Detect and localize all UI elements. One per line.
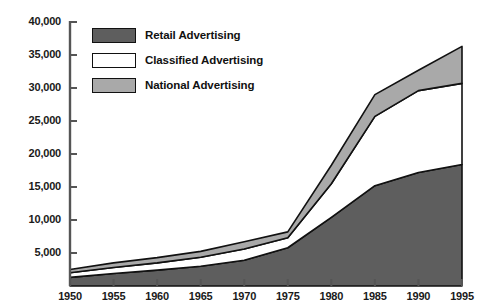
legend-swatch-icon (92, 78, 136, 93)
x-axis-label-1965: 1965 (178, 290, 224, 302)
x-axis-label-1990: 1990 (395, 290, 441, 302)
y-axis-label-10000: 10,000 (0, 213, 61, 225)
legend-item-retail-advertising: Retail Advertising (92, 24, 263, 46)
x-axis-label-1980: 1980 (308, 290, 354, 302)
legend-item-national-advertising: National Advertising (92, 74, 263, 96)
y-axis-label-15000: 15,000 (0, 180, 61, 192)
legend-swatch-icon (92, 28, 136, 43)
chart-legend: Retail AdvertisingClassified Advertising… (92, 24, 263, 99)
y-axis-label-35000: 35,000 (0, 48, 61, 60)
y-axis-label-25000: 25,000 (0, 114, 61, 126)
y-axis-label-40000: 40,000 (0, 15, 61, 27)
x-axis-label-1970: 1970 (221, 290, 267, 302)
x-axis-label-1995: 1995 (439, 290, 478, 302)
y-axis-label-5000: 5,000 (0, 246, 61, 258)
x-axis-label-1975: 1975 (265, 290, 311, 302)
x-axis-label-1950: 1950 (47, 290, 93, 302)
legend-item-classified-advertising: Classified Advertising (92, 49, 263, 71)
y-axis-label-20000: 20,000 (0, 147, 61, 159)
x-axis-label-1985: 1985 (352, 290, 398, 302)
legend-item-label: National Advertising (145, 79, 254, 91)
legend-item-label: Retail Advertising (145, 29, 241, 41)
x-axis-label-1955: 1955 (91, 290, 137, 302)
x-axis-label-1960: 1960 (134, 290, 180, 302)
y-axis-label-30000: 30,000 (0, 81, 61, 93)
legend-swatch-icon (92, 53, 136, 68)
advertising-revenue-area-chart: 5,00010,00015,00020,00025,00030,00035,00… (0, 0, 478, 308)
legend-item-label: Classified Advertising (145, 54, 263, 66)
